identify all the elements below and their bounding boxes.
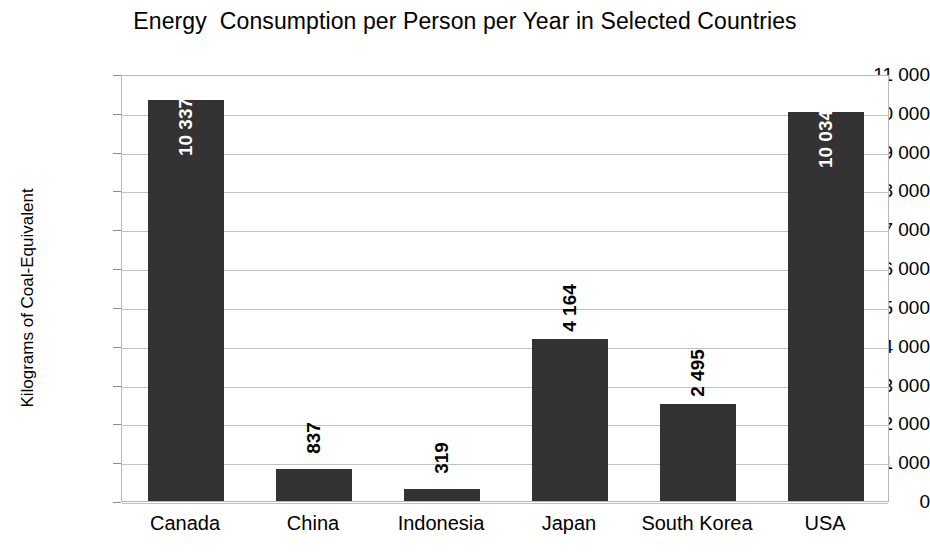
y-axis-tick-mark [113, 191, 121, 192]
y-axis-tick-mark [113, 153, 121, 154]
y-axis-tick-mark [113, 308, 121, 309]
page-title: Energy Consumption per Person per Year i… [0, 8, 930, 35]
bar-japan[interactable] [532, 339, 609, 501]
gridline [122, 115, 888, 116]
gridline [122, 154, 888, 155]
x-axis-label-japan: Japan [542, 512, 597, 535]
plot-area: 10 3378373194 1642 49510 034 [121, 75, 889, 502]
x-axis-label-south-korea: South Korea [641, 512, 752, 535]
x-axis-label-china: China [287, 512, 339, 535]
gridline [122, 231, 888, 232]
y-axis-tick-mark [113, 386, 121, 387]
y-axis-tick-mark [113, 502, 121, 503]
gridline [122, 503, 888, 504]
gridline [122, 192, 888, 193]
bar-china[interactable] [276, 469, 353, 501]
bar-usa[interactable]: 10 034 [788, 112, 865, 502]
y-axis-label: Kilograms of Coal-Equivalent [18, 148, 38, 448]
bar-value-label: 10 337 [175, 98, 197, 156]
x-axis-label-indonesia: Indonesia [398, 512, 485, 535]
bar-value-label: 4 164 [559, 285, 581, 333]
gridline [122, 387, 888, 388]
gridline [122, 464, 888, 465]
bar-value-label: 10 034 [815, 109, 837, 167]
y-axis-tick-mark [113, 230, 121, 231]
gridline [122, 309, 888, 310]
bar-value-label: 319 [431, 442, 453, 474]
gridline [122, 425, 888, 426]
bar-canada[interactable]: 10 337 [148, 100, 225, 501]
gridline [122, 270, 888, 271]
y-axis-tick-mark [113, 424, 121, 425]
y-axis-tick-mark [113, 347, 121, 348]
chart-page: Energy Consumption per Person per Year i… [0, 0, 930, 558]
y-axis-tick-mark [113, 114, 121, 115]
x-axis-label-usa: USA [804, 512, 845, 535]
x-axis-label-canada: Canada [150, 512, 220, 535]
bar-value-label: 2 495 [687, 349, 709, 397]
bar-south-korea[interactable] [660, 404, 737, 501]
y-axis-tick-mark [113, 463, 121, 464]
y-axis-tick-mark [113, 75, 121, 76]
gridline [122, 348, 888, 349]
bar-value-label: 837 [303, 422, 325, 454]
bar-indonesia[interactable] [404, 489, 481, 501]
y-axis-tick-mark [113, 269, 121, 270]
